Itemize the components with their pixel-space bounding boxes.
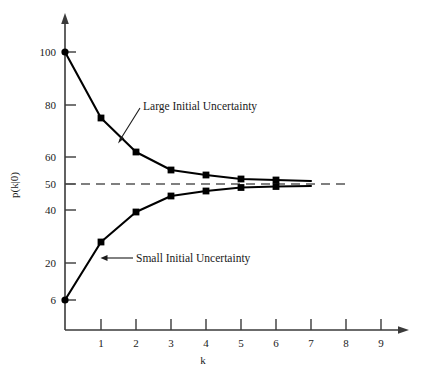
convergence-chart-figure: 100 80 60 50 40 20 6 1 2 3 4 5 6	[0, 0, 428, 368]
series-small-initial-uncertainty	[61, 183, 311, 304]
annotation-small-initial-uncertainty: Small Initial Uncertainty	[101, 252, 251, 265]
data-point	[273, 177, 280, 184]
x-axis-ticks	[101, 319, 381, 330]
x-axis-arrow-icon	[398, 326, 409, 334]
annotation-label-lower: Small Initial Uncertainty	[136, 252, 251, 265]
data-point	[168, 193, 175, 200]
y-axis-arrow-icon	[61, 13, 69, 24]
series-large-initial-uncertainty	[61, 48, 311, 183]
data-point	[238, 184, 245, 191]
annotation-label-upper: Large Initial Uncertainty	[143, 100, 257, 113]
x-tick-label-3: 3	[168, 337, 174, 349]
x-tick-label-4: 4	[203, 337, 209, 349]
x-tick-label-9: 9	[378, 337, 384, 349]
x-axis-title: k	[200, 354, 206, 366]
annotation-leader-line-upper	[120, 108, 140, 140]
data-point	[133, 149, 140, 156]
y-tick-label-100: 100	[40, 46, 57, 58]
data-point	[168, 167, 175, 174]
x-tick-label-6: 6	[273, 337, 279, 349]
data-point	[61, 296, 68, 303]
annotation-large-initial-uncertainty: Large Initial Uncertainty	[118, 100, 257, 144]
chart-canvas: 100 80 60 50 40 20 6 1 2 3 4 5 6	[0, 0, 428, 368]
data-point	[133, 209, 140, 216]
data-point	[238, 176, 245, 183]
x-axis-tick-labels: 1 2 3 4 5 6 7 8 9	[98, 337, 384, 349]
x-tick-label-2: 2	[133, 337, 139, 349]
data-point	[273, 183, 280, 190]
y-tick-label-6: 6	[51, 294, 57, 306]
y-tick-label-60: 60	[45, 151, 57, 163]
x-tick-label-5: 5	[238, 337, 244, 349]
data-point	[98, 115, 105, 122]
annotation-arrow-icon-lower	[101, 255, 108, 261]
y-axis-ticks	[65, 52, 76, 300]
y-tick-label-80: 80	[45, 99, 57, 111]
x-tick-label-7: 7	[308, 337, 314, 349]
axis-lines	[61, 13, 409, 334]
y-tick-label-20: 20	[45, 257, 57, 269]
x-tick-label-1: 1	[98, 337, 104, 349]
y-tick-label-50: 50	[45, 178, 57, 190]
data-point	[203, 188, 210, 195]
y-axis-tick-labels: 100 80 60 50 40 20 6	[40, 46, 57, 306]
data-point	[98, 239, 105, 246]
data-point	[203, 172, 210, 179]
y-axis-title: p(k|0)	[8, 172, 21, 198]
x-tick-label-8: 8	[343, 337, 349, 349]
y-tick-label-40: 40	[45, 204, 57, 216]
data-point	[61, 48, 68, 55]
